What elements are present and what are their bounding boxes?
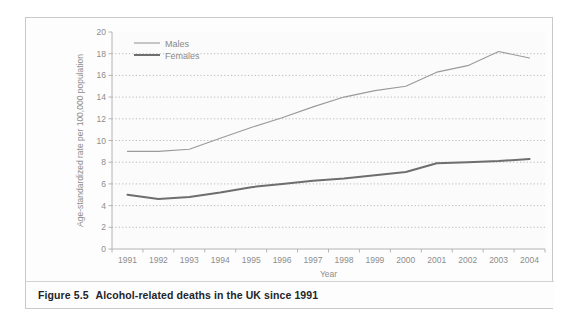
y-tick-label-16: 16 [97,70,107,80]
x-tick-label-1999: 1999 [365,255,384,265]
x-tick-label-2004: 2004 [520,255,539,265]
y-tick-label-12: 12 [97,114,107,124]
figure-container: 0246810121416182019911992199319941995199… [0,0,584,324]
x-tick-label-1992: 1992 [149,255,168,265]
y-axis-title: Age-standardized rate per 100,000 popula… [75,54,85,227]
x-tick-label-2001: 2001 [427,255,446,265]
figure-caption-bar: Figure 5.5Alcohol-related deaths in the … [26,281,554,308]
figure-number: Figure 5.5 [38,289,89,301]
y-tick-label-0: 0 [101,244,106,254]
legend-label-females: Females [165,51,200,61]
x-tick-label-2003: 2003 [489,255,508,265]
x-tick-label-1995: 1995 [242,255,261,265]
x-tick-label-1991: 1991 [118,255,137,265]
y-tick-label-4: 4 [101,201,106,211]
figure-title-text: Alcohol-related deaths in the UK since 1… [96,289,319,301]
chart-plot-area: 0246810121416182019911992199319941995199… [26,18,554,282]
y-tick-label-2: 2 [101,222,106,232]
x-tick-label-2002: 2002 [458,255,477,265]
figure-box: 0246810121416182019911992199319941995199… [25,17,553,309]
x-axis-title: Year [320,269,337,279]
x-tick-label-1994: 1994 [211,255,230,265]
y-tick-label-6: 6 [101,179,106,189]
y-tick-label-8: 8 [101,157,106,167]
y-tick-label-18: 18 [97,49,107,59]
figure-caption: Figure 5.5Alcohol-related deaths in the … [38,289,318,301]
x-tick-label-1993: 1993 [180,255,199,265]
y-tick-label-14: 14 [97,92,107,102]
legend-label-males: Males [165,39,190,49]
line-chart-svg: 0246810121416182019911992199319941995199… [26,18,554,282]
x-tick-label-1998: 1998 [335,255,354,265]
y-tick-label-10: 10 [97,136,107,146]
x-tick-label-1997: 1997 [304,255,323,265]
x-tick-label-2000: 2000 [396,255,415,265]
x-tick-label-1996: 1996 [273,255,292,265]
y-tick-label-20: 20 [97,27,107,37]
